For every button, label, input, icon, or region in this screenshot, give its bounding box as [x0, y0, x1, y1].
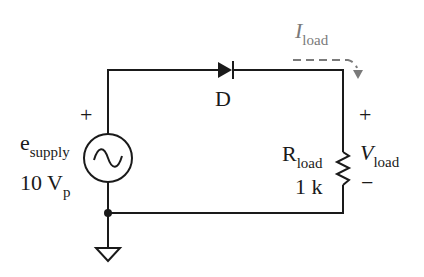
diode-triangle — [218, 62, 232, 78]
source-value-main: 10 V — [20, 170, 63, 195]
ac-source — [84, 134, 132, 182]
current-arrowhead-icon — [353, 70, 363, 79]
voltage-name-label: Vload — [360, 142, 399, 164]
current-name-sub: load — [302, 32, 328, 48]
load-name-main: R — [282, 141, 297, 166]
source-name-sub: supply — [30, 144, 70, 160]
source-value-sub: p — [63, 184, 71, 200]
diode-label: D — [215, 88, 231, 110]
ground-icon — [96, 248, 120, 261]
source-plus-label: + — [80, 104, 92, 126]
source-name-main: e — [20, 130, 30, 155]
resistor-zigzag — [337, 152, 349, 185]
load-name-sub: load — [297, 155, 323, 171]
junction-dot — [104, 209, 112, 217]
source-name-label: esupply — [20, 132, 70, 154]
diode — [218, 61, 233, 79]
current-label: Iload — [295, 20, 328, 42]
voltage-plus-label: + — [359, 104, 371, 126]
wire-top-right — [233, 70, 343, 152]
wire-top-left — [108, 70, 218, 145]
load-name-label: Rload — [282, 143, 323, 165]
load-value-label: 1 k — [295, 176, 323, 198]
voltage-minus-label: − — [361, 172, 373, 194]
source-value-label: 10 Vp — [20, 172, 71, 194]
voltage-name-sub: load — [373, 154, 399, 170]
voltage-name-main: V — [360, 140, 373, 165]
